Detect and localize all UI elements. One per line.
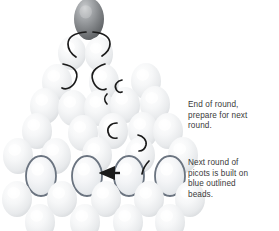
bead-highlight <box>75 210 88 222</box>
bead-highlight <box>46 144 59 156</box>
bead-highlight <box>90 43 102 54</box>
bead-highlight <box>173 143 186 155</box>
bead-highlight <box>94 70 107 82</box>
bead-highlight <box>77 163 90 176</box>
bead-highlight <box>145 92 158 104</box>
bead-highlight <box>118 210 131 222</box>
annotation-next-round: Next round of picots is built on blue ou… <box>188 158 279 200</box>
bead-highlight <box>35 94 48 106</box>
bead-highlight <box>87 143 100 155</box>
bead-highlight <box>47 70 60 82</box>
bead-highlight <box>79 5 92 18</box>
bead-highlight <box>160 163 173 176</box>
bead-highlight <box>119 163 132 176</box>
bead-highlight <box>31 163 44 176</box>
diagram-canvas: End of round, prepare for next round. Ne… <box>0 0 279 231</box>
bead-highlight <box>89 96 102 108</box>
bead-highlight <box>7 187 20 199</box>
bead-highlight <box>160 210 173 222</box>
bead-highlight <box>115 93 128 105</box>
bead-highlight <box>96 187 109 199</box>
bead-highlight <box>139 187 152 199</box>
bead-highlight <box>27 119 40 131</box>
annotation-end-of-round: End of round, prepare for next round. <box>188 100 279 132</box>
bead-highlight <box>30 210 43 222</box>
bead-highlight <box>73 121 86 133</box>
bead-highlight <box>8 144 21 156</box>
bead-highlight <box>63 96 76 108</box>
bead-highlight <box>136 69 149 81</box>
bead <box>2 181 32 217</box>
bead-highlight <box>133 118 146 130</box>
bead-highlight <box>130 143 143 155</box>
bead-highlight <box>158 119 171 131</box>
bead-highlight <box>52 187 65 199</box>
